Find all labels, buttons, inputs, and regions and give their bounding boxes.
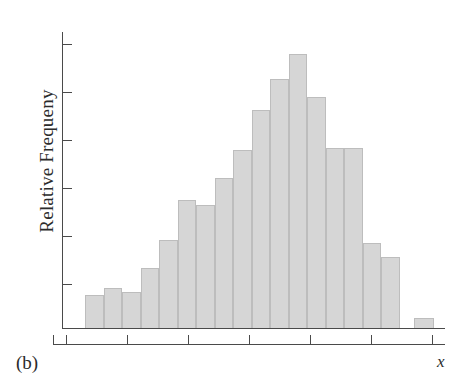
panel-label: (b)	[16, 352, 38, 374]
histogram-bar	[85, 295, 104, 328]
x-axis-tick	[310, 335, 311, 345]
x-axis-baseline	[62, 328, 445, 329]
histogram-bar	[178, 200, 196, 328]
histogram-bar	[307, 97, 326, 328]
histogram-bar	[270, 79, 289, 328]
histogram-bar	[289, 54, 307, 328]
histogram-bar	[363, 243, 381, 328]
histogram-bar	[233, 150, 252, 328]
x-axis-label: x	[437, 352, 445, 372]
y-axis-label: Relative Frequeny	[36, 51, 58, 271]
x-axis-tick	[371, 335, 372, 345]
histogram-bar	[344, 148, 363, 328]
histogram-figure: Relative Frequeny x (b)	[0, 0, 465, 383]
histogram-bar	[159, 240, 178, 328]
x-axis-tick	[188, 335, 189, 345]
histogram-bar	[104, 288, 122, 328]
histogram-bar	[215, 178, 233, 328]
x-axis-tick	[66, 335, 67, 345]
x-axis-tick	[432, 335, 433, 345]
histogram-bar	[381, 257, 400, 328]
x-axis-tick	[249, 335, 250, 345]
histogram-bar	[141, 268, 159, 328]
histogram-bar	[122, 292, 141, 328]
histogram-bar	[326, 148, 344, 328]
histogram-bar	[252, 110, 270, 328]
histogram-bar	[196, 205, 215, 328]
histogram-bar	[414, 318, 434, 328]
histogram-bar-group	[0, 0, 465, 383]
x-axis-tick	[127, 335, 128, 345]
